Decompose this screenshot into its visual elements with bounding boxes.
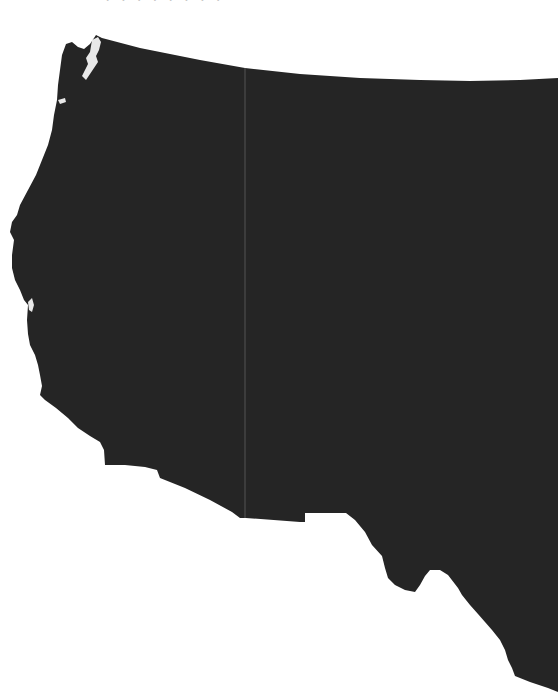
western-us-map bbox=[0, 0, 558, 692]
western-us-region bbox=[10, 35, 558, 692]
